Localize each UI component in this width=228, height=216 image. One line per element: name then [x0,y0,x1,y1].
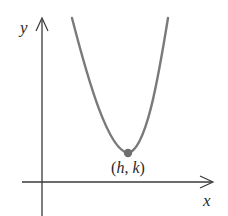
parabola-curve [72,18,168,153]
vertex-point-icon [124,149,132,157]
x-axis [22,176,213,188]
vertex-label: (h, k) [111,159,145,177]
vertex-label-sep: , [124,159,132,176]
diagram-canvas: y x (h, k) [0,0,228,216]
x-axis-label: x [202,191,211,210]
parabola-diagram: y x (h, k) [0,0,228,216]
vertex-label-close: ) [140,159,145,177]
y-axis [36,18,48,216]
y-axis-label: y [18,18,28,37]
vertex-label-h: h [116,159,124,176]
